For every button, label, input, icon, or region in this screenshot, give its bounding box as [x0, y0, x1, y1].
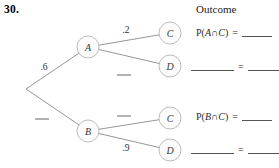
branch-root-to-B [26, 89, 79, 125]
answer-blank-right[interactable] [248, 63, 279, 71]
outcome-row-outcome-b-d: = [191, 144, 279, 155]
node-label-D1: D [165, 61, 174, 72]
outcome-expression: P(B∩C) [196, 111, 228, 122]
answer-blank[interactable] [242, 29, 272, 37]
outcome-row-outcome-b-c: P(B∩C)= [196, 111, 272, 122]
tree-node-D1: D [159, 55, 181, 77]
answer-blank-right[interactable] [248, 146, 279, 154]
probability-tree-figure: 30. Outcome ABCDCD .6.2.9 P(A∩C)==P(B∩C)… [0, 0, 279, 168]
outcome-expression: P(A∩C) [196, 27, 228, 38]
node-label-A: A [84, 42, 92, 53]
tree-node-A: A [77, 36, 99, 58]
equals-sign: = [238, 144, 244, 155]
node-label-B: B [85, 126, 91, 137]
answer-blank-left[interactable] [191, 146, 234, 154]
branch-root-to-A [26, 53, 79, 89]
probability-label-B-to-D: .9 [122, 143, 129, 153]
answer-blank-left[interactable] [191, 63, 234, 71]
equals-sign: = [232, 111, 238, 122]
tree-diagram: ABCDCD .6.2.9 [0, 0, 279, 168]
probability-label-root-to-A: .6 [40, 62, 47, 72]
node-label-D2: D [165, 145, 174, 156]
tree-node-D2: D [159, 139, 181, 161]
branch-B-to-C [99, 120, 159, 130]
equals-sign: = [232, 27, 238, 38]
equals-sign: = [238, 61, 244, 72]
answer-blank[interactable] [242, 113, 272, 121]
tree-node-C1: C [159, 22, 181, 44]
tree-node-C2: C [159, 107, 181, 129]
event-second: C [218, 27, 225, 38]
branch-A-to-C [99, 35, 159, 45]
probability-label-A-to-C: .2 [122, 25, 129, 35]
outcome-row-outcome-a-c: P(A∩C)= [196, 27, 272, 38]
tree-node-B: B [77, 120, 99, 142]
node-label-C2: C [167, 113, 174, 124]
branch-A-to-D [99, 49, 160, 63]
node-label-C1: C [167, 28, 174, 39]
outcome-row-outcome-a-d: = [191, 61, 279, 72]
event-second: C [218, 111, 225, 122]
